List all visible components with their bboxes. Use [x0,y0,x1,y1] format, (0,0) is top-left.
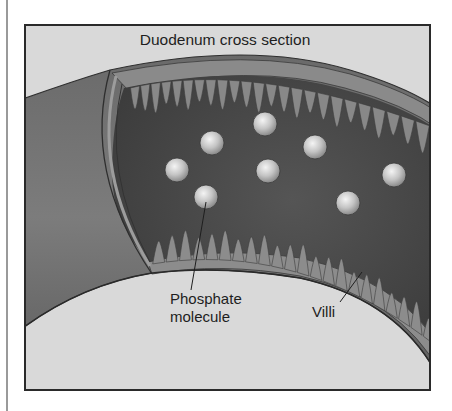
phosphate-molecule [382,163,406,187]
phosphate-molecule [200,131,224,155]
phosphate-label-line1: Phosphate [170,290,242,307]
phosphate-molecule [336,191,360,215]
phosphate-molecule [165,158,189,182]
phosphate-label-line2: molecule [170,308,230,325]
villi-label: Villi [312,303,335,320]
phosphate-molecule [303,135,327,159]
phosphate-molecule [253,112,277,136]
phosphate-molecule [256,159,280,183]
diagram-title: Duodenum cross section [140,31,311,48]
duodenum-diagram: Duodenum cross section Phosphate molecul… [0,0,452,411]
phosphate-molecule [194,185,218,209]
